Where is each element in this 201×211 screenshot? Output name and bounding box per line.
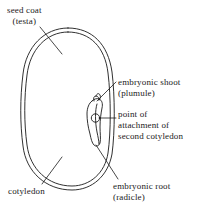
label-embryonic-root: embryonic root (radicle) bbox=[113, 181, 170, 203]
leader-line-cotyledon bbox=[42, 157, 62, 184]
leader-line-embryonic-shoot bbox=[97, 82, 116, 101]
label-point-of-attachment-line3: second cotyledon bbox=[118, 131, 183, 142]
label-point-of-attachment: point of attachment of second cotyledon bbox=[118, 109, 183, 142]
seed-diagram-figure: seed coat (testa) embryonic shoot (plumu… bbox=[0, 0, 201, 211]
seed-diagram-drawing bbox=[0, 0, 201, 211]
leader-line-embryonic-root bbox=[96, 145, 118, 179]
label-seed-coat-line2: (testa) bbox=[7, 16, 42, 27]
label-embryonic-shoot-line2: (plumule) bbox=[118, 88, 181, 99]
label-embryonic-root-line1: embryonic root bbox=[113, 181, 170, 192]
label-seed-coat: seed coat (testa) bbox=[7, 5, 42, 27]
embryo-inner-fold-line bbox=[96, 104, 100, 144]
label-cotyledon: cotyledon bbox=[8, 186, 45, 197]
label-point-of-attachment-line1: point of bbox=[118, 109, 183, 120]
label-embryonic-shoot: embryonic shoot (plumule) bbox=[118, 77, 181, 99]
seed-coat-inner-outline bbox=[25, 32, 111, 186]
label-seed-coat-line1: seed coat bbox=[7, 5, 42, 16]
label-embryonic-shoot-line1: embryonic shoot bbox=[118, 77, 181, 88]
label-embryonic-root-line2: (radicle) bbox=[113, 192, 170, 203]
label-point-of-attachment-line2: attachment of bbox=[118, 120, 183, 131]
label-cotyledon-line1: cotyledon bbox=[8, 186, 45, 197]
